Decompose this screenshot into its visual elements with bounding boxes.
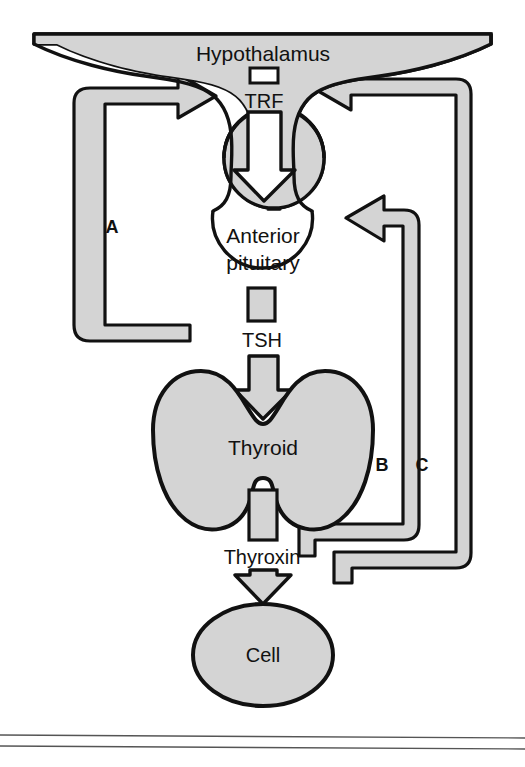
tsh-label: TSH (242, 329, 282, 351)
trf-marker-icon (250, 68, 278, 83)
feedback-loop-c-label: C (416, 455, 429, 475)
cell-label: Cell (246, 644, 280, 666)
feedback-loop-b-label: B (376, 455, 389, 475)
thyroxin-marker-icon (249, 490, 277, 540)
hypothalamus-label: Hypothalamus (196, 42, 330, 65)
thyroxin-label: Thyroxin (224, 546, 301, 568)
tsh-marker-icon (248, 288, 275, 321)
feedback-loop-a-label: A (106, 217, 119, 237)
thyroid-label: Thyroid (228, 436, 298, 459)
anterior-pituitary-label-line2: pituitary (226, 251, 300, 274)
trf-label: TRF (245, 90, 284, 112)
diagram-root: Hypothalamus TRF Anterior pituitary TSH … (0, 0, 525, 767)
anterior-pituitary-label-line1: Anterior (226, 224, 300, 247)
thyroid-axis-diagram: Hypothalamus TRF Anterior pituitary TSH … (0, 0, 525, 767)
